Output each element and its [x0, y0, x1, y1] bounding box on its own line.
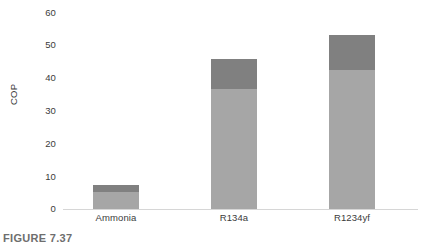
x-tick-r134a: R134a: [193, 212, 275, 224]
bar-segment-lower-r134a: [211, 89, 257, 209]
x-tick-r1234yf: R1234yf: [311, 212, 393, 224]
x-axis-line: [63, 209, 418, 210]
x-tick-ammonia: Ammonia: [75, 212, 157, 224]
bar-segment-lower-r1234yf: [329, 70, 375, 209]
bar-group-ammonia: [93, 0, 139, 209]
figure-caption: FIGURE 7.37: [3, 232, 72, 244]
y-tick-60: 60: [26, 8, 56, 18]
bar-segment-lower-ammonia: [93, 192, 139, 209]
bar-segment-upper-r1234yf: [329, 35, 375, 70]
y-tick-10: 10: [26, 172, 56, 182]
x-axis-tick-labels: Ammonia R134a R1234yf: [63, 212, 418, 228]
chart-plot: COP 60 50 40 30 20 10 0: [0, 0, 425, 222]
y-axis-title: COP: [8, 84, 19, 105]
bar-segment-upper-r134a: [211, 59, 257, 89]
bar-stack-ammonia: [93, 185, 139, 209]
y-tick-40: 40: [26, 73, 56, 83]
bar-group-r1234yf: [329, 0, 375, 209]
bar-stack-r1234yf: [329, 35, 375, 209]
bar-segment-upper-ammonia: [93, 185, 139, 192]
figure-container: COP 60 50 40 30 20 10 0: [0, 0, 425, 251]
y-tick-30: 30: [26, 106, 56, 116]
y-axis-tick-labels: 60 50 40 30 20 10 0: [26, 0, 56, 222]
bar-group-r134a: [211, 0, 257, 209]
bar-stack-r134a: [211, 59, 257, 209]
y-tick-20: 20: [26, 139, 56, 149]
bars-container: [63, 0, 418, 209]
y-tick-0: 0: [26, 204, 56, 214]
y-tick-50: 50: [26, 40, 56, 50]
